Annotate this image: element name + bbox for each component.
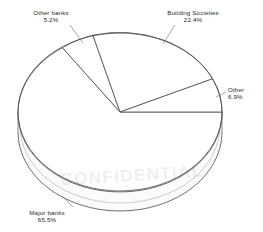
- pie-chart-canvas: [0, 0, 263, 232]
- slice-label-other-banks-value: 5.2%: [24, 16, 78, 23]
- slice-label-building-societies: Building Societies 22.4%: [160, 9, 226, 24]
- slice-label-major-banks-name: Major banks: [20, 209, 74, 216]
- slice-label-other-name: Other: [228, 86, 260, 93]
- slice-label-major-banks-value: 65.5%: [20, 216, 74, 223]
- slice-label-building-societies-value: 22.4%: [160, 16, 226, 23]
- slice-label-building-societies-name: Building Societies: [160, 9, 226, 16]
- slice-label-major-banks: Major banks 65.5%: [20, 209, 74, 224]
- slice-label-other-banks-name: Other banks: [24, 9, 78, 16]
- pie-chart-figure: CONFIDENTIAL Other banks 5.2% Building S…: [0, 0, 263, 232]
- slice-label-other-banks: Other banks 5.2%: [24, 9, 78, 24]
- leader-line-building-societies: [163, 25, 175, 44]
- slice-label-other-value: 6.9%: [228, 93, 260, 100]
- slice-label-other: Other 6.9%: [228, 86, 260, 101]
